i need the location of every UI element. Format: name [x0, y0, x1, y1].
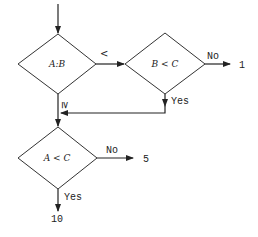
b-lt-c-no-label: No	[207, 51, 219, 62]
output-1: 1	[239, 60, 245, 71]
output-5: 5	[143, 154, 149, 165]
decision-a-b-label: A:B	[48, 59, 66, 69]
greater-equal-label: ≥	[60, 101, 71, 109]
output-10: 10	[51, 214, 63, 225]
decision-b-lt-c-label: B < C	[151, 59, 179, 69]
b-lt-c-yes-label: Yes	[171, 96, 189, 107]
a-lt-c-no-label: No	[106, 145, 118, 156]
decision-a-lt-c-label: A < C	[43, 153, 71, 163]
flowchart: A:B < B < C No 1 Yes ≥ A < C No 5 Yes 10	[0, 0, 258, 237]
arrow-return-to-a-lt-c	[61, 106, 165, 113]
less-than-label: <	[100, 48, 108, 59]
a-lt-c-yes-label: Yes	[64, 192, 82, 203]
